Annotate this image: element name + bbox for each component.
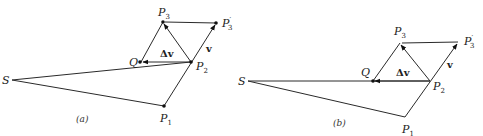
point-p1	[162, 104, 166, 108]
point-q	[371, 79, 375, 83]
figure-a: S P1 P2 P3 P′3 Q Δv v (a)	[2, 6, 232, 127]
label-delta-v: Δv	[160, 48, 175, 59]
label-p3: P3	[157, 6, 170, 21]
label-p3-prime: P′3	[463, 34, 474, 50]
label-v: v	[446, 59, 454, 70]
caption-b: (b)	[333, 118, 346, 128]
line-s-p2	[12, 62, 191, 80]
label-p2: P2	[195, 60, 208, 75]
label-p2: P2	[432, 80, 445, 95]
line-s-p1	[12, 80, 164, 106]
line-p3p-p3	[402, 42, 458, 43]
point-p3-prime	[214, 21, 218, 25]
label-p3: P3	[393, 25, 406, 40]
label-v: v	[205, 43, 213, 54]
line-s-p1	[248, 81, 405, 117]
label-p1: P1	[401, 123, 414, 136]
label-s: S	[238, 75, 246, 88]
label-delta-v: Δv	[396, 67, 411, 78]
point-p2	[189, 60, 193, 64]
point-p3	[161, 20, 165, 24]
label-q: Q	[129, 56, 138, 69]
label-s: S	[2, 74, 10, 87]
label-p3-prime: P′3	[221, 16, 232, 32]
label-p1: P1	[159, 112, 172, 127]
label-q: Q	[361, 66, 370, 79]
caption-a: (a)	[76, 114, 89, 124]
vector-v	[164, 25, 215, 106]
figure-b: S P1 P2 P3 P′3 Q Δv v (b)	[238, 25, 474, 136]
line-p3p-p3	[165, 22, 216, 23]
point-q	[138, 60, 142, 64]
orbital-velocity-diagram: S P1 P2 P3 P′3 Q Δv v (a) S P1 P2 P3 P′3…	[0, 0, 483, 136]
